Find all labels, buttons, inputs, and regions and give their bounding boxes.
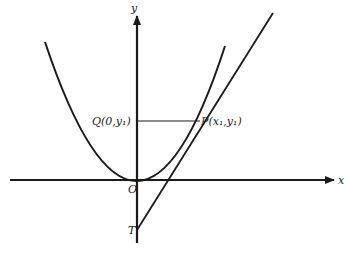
y-axis-label: y xyxy=(130,2,138,15)
diagram-svg: y x O Q(0,y₁) P(x₁,y₁) T xyxy=(0,0,349,257)
origin-label: O xyxy=(128,183,137,196)
point-q-label: Q(0,y₁) xyxy=(92,115,131,128)
point-p-label: P(x₁,y₁) xyxy=(200,115,242,128)
parabola-curve xyxy=(45,42,225,181)
diagram-canvas: y x O Q(0,y₁) P(x₁,y₁) T xyxy=(0,0,349,257)
x-axis-label: x xyxy=(338,174,345,187)
point-t-label: T xyxy=(128,224,137,237)
